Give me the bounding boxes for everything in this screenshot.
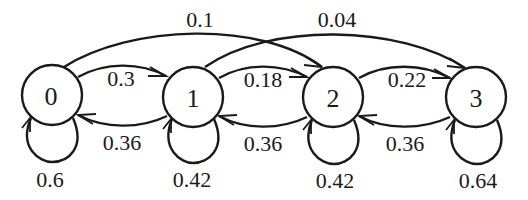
state-node-3: 3 xyxy=(446,67,506,127)
state-node-0: 0 xyxy=(22,65,82,125)
state-node-2: 2 xyxy=(303,67,363,127)
edge-label-0-to-2: 0.1 xyxy=(186,7,214,32)
edge-label-1-to-3: 0.04 xyxy=(318,7,357,32)
edge-1-to-3 xyxy=(205,34,465,68)
edge-label-2-to-3: 0.22 xyxy=(388,67,427,92)
state-label-3: 3 xyxy=(470,84,483,113)
edge-label-1-self: 0.42 xyxy=(173,167,212,192)
edge-2-to-1 xyxy=(219,115,307,127)
state-label-0: 0 xyxy=(45,82,58,111)
edge-label-2-self: 0.42 xyxy=(316,168,355,193)
state-node-1: 1 xyxy=(163,67,223,127)
markov-chain-diagram: 0 1 2 3 0.1 0.04 0.3 0.18 0.22 0.36 0.36… xyxy=(0,0,528,200)
edge-label-2-to-1: 0.36 xyxy=(244,131,283,156)
edge-label-1-to-2: 0.18 xyxy=(244,67,283,92)
edge-label-1-to-0: 0.36 xyxy=(103,130,142,155)
state-label-1: 1 xyxy=(187,84,200,113)
state-label-2: 2 xyxy=(327,84,340,113)
edge-label-3-to-2: 0.36 xyxy=(386,131,425,156)
edge-1-to-0 xyxy=(78,114,167,126)
edge-label-0-self: 0.6 xyxy=(36,167,64,192)
edge-3-to-2 xyxy=(359,115,450,127)
edge-label-3-self: 0.64 xyxy=(459,168,498,193)
edge-label-0-to-1: 0.3 xyxy=(107,66,135,91)
